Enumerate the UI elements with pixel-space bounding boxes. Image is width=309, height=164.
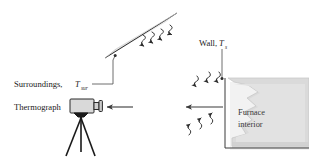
wall-leader xyxy=(221,49,224,80)
surroundings-label-text: Surroundings, xyxy=(14,79,62,89)
wavy-arrow-ul-2 xyxy=(206,72,210,83)
wavy-arrow-lr-1 xyxy=(188,124,191,135)
wavy-arrow-ul-1 xyxy=(194,76,198,87)
thermograph-label-text: Thermograph xyxy=(14,102,61,112)
surroundings-subscript: sur xyxy=(81,85,89,91)
furnace-label-line2: interior xyxy=(238,120,263,129)
wavy-arrow-2 xyxy=(151,32,155,43)
heat-transfer-diagram: Surroundings, T sur Thermograph Wall, T … xyxy=(0,0,309,164)
wall-label-text: Wall, xyxy=(199,38,217,48)
furnace-label-line1: Furnace xyxy=(238,108,265,117)
label-wall: Wall, T s xyxy=(199,38,227,50)
wavy-arrow-4 xyxy=(169,25,173,35)
surroundings-radiation-arrows xyxy=(142,25,173,46)
surroundings-leader xyxy=(92,54,117,84)
label-surroundings: Surroundings, T sur xyxy=(14,79,89,91)
thermograph-camera xyxy=(66,99,102,156)
wavy-arrow-lr-2 xyxy=(199,118,202,129)
wall-subscript: s xyxy=(225,44,227,50)
wavy-arrow-lr-3 xyxy=(210,113,213,124)
wall-upper-radiation-arrows xyxy=(194,72,220,87)
wavy-arrow-1 xyxy=(142,35,146,46)
label-thermograph: Thermograph xyxy=(14,102,61,112)
diagram-canvas: Surroundings, T sur Thermograph Wall, T … xyxy=(0,0,309,164)
wavy-arrow-3 xyxy=(160,29,164,40)
surroundings-surface xyxy=(105,13,177,58)
wavy-arrow-ul-3 xyxy=(216,72,220,83)
wall-lower-radiation-arrows xyxy=(188,113,213,135)
